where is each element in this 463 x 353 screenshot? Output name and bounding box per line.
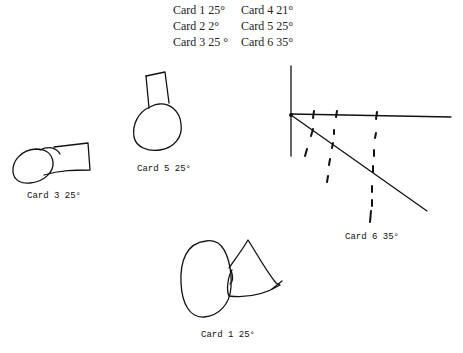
card6-drawing <box>289 66 451 222</box>
card5-drawing <box>134 72 182 150</box>
card6-caption: Card 6 35° <box>345 232 399 242</box>
card3-caption: Card 3 25° <box>27 191 81 201</box>
card1-drawing <box>181 240 282 317</box>
card1-caption: Card 1 25° <box>201 330 255 340</box>
sketch-canvas <box>0 0 463 353</box>
card5-caption: Card 5 25° <box>137 164 191 174</box>
card3-drawing <box>13 143 90 183</box>
